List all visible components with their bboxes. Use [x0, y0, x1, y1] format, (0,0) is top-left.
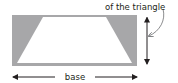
base-label: base	[65, 72, 85, 82]
trapezoid-diagram: of the triangle base	[0, 0, 178, 83]
curved-pointer-arrow	[149, 9, 164, 36]
triangle-label: of the triangle	[105, 2, 165, 12]
